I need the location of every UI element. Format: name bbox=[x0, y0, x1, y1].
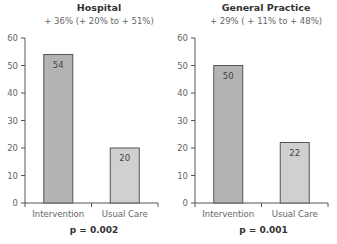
bar-intervention: 54 bbox=[44, 55, 73, 204]
x-tick-label: Intervention bbox=[32, 209, 84, 219]
y-tick-label: 10 bbox=[177, 171, 188, 181]
p-value: p = 0.001 bbox=[190, 225, 337, 235]
bar-plot: 0102030405060InterventionUsual Care5420 bbox=[0, 0, 168, 230]
bar-intervention: 50 bbox=[214, 66, 243, 204]
general-practice-chart-panel: General Practice + 29% ( + 11% to + 48%)… bbox=[170, 0, 337, 244]
y-tick-label: 20 bbox=[177, 143, 188, 153]
y-axis: 0102030405060 bbox=[177, 33, 195, 208]
y-tick-label: 20 bbox=[7, 143, 18, 153]
x-axis: InterventionUsual Care bbox=[195, 203, 328, 219]
y-tick-label: 50 bbox=[7, 61, 18, 71]
bar-value-label: 54 bbox=[53, 60, 64, 70]
y-tick-label: 0 bbox=[13, 198, 18, 208]
y-tick-label: 30 bbox=[177, 116, 188, 126]
y-tick-label: 60 bbox=[177, 33, 188, 43]
bar-value-label: 20 bbox=[119, 153, 130, 163]
bar-value-label: 22 bbox=[289, 148, 300, 158]
y-tick-label: 10 bbox=[7, 171, 18, 181]
p-value: p = 0.002 bbox=[20, 225, 168, 235]
hospital-chart-panel: Hospital + 36% (+ 20% to + 51%) 01020304… bbox=[0, 0, 168, 244]
bar-plot: 0102030405060InterventionUsual Care5022 bbox=[170, 0, 337, 230]
x-axis: InterventionUsual Care bbox=[25, 203, 158, 219]
x-tick-label: Usual Care bbox=[102, 209, 148, 219]
y-axis: 0102030405060 bbox=[7, 33, 25, 208]
bar-value-label: 50 bbox=[223, 71, 234, 81]
y-tick-label: 50 bbox=[177, 61, 188, 71]
bar-usual-care: 20 bbox=[110, 148, 139, 203]
bar-usual-care: 22 bbox=[280, 143, 309, 204]
y-tick-label: 30 bbox=[7, 116, 18, 126]
x-tick-label: Intervention bbox=[202, 209, 254, 219]
y-tick-label: 0 bbox=[183, 198, 188, 208]
y-tick-label: 40 bbox=[7, 88, 18, 98]
y-tick-label: 60 bbox=[7, 33, 18, 43]
y-tick-label: 40 bbox=[177, 88, 188, 98]
x-tick-label: Usual Care bbox=[272, 209, 318, 219]
